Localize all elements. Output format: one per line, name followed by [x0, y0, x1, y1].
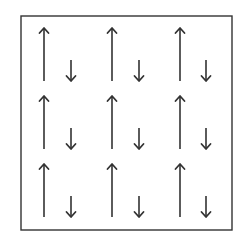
long-up-arrow-icon: [40, 28, 49, 81]
long-up-arrow-icon: [108, 28, 117, 81]
long-up-arrow-icon: [176, 28, 185, 81]
long-up-arrow-icon: [176, 164, 185, 217]
long-up-arrow-icon: [108, 164, 117, 217]
long-up-arrow-icon: [40, 96, 49, 149]
short-down-arrow-icon: [202, 196, 211, 217]
short-down-arrow-icon: [67, 60, 76, 81]
long-up-arrow-icon: [40, 164, 49, 217]
short-down-arrow-icon: [135, 60, 144, 81]
short-down-arrow-icon: [135, 196, 144, 217]
long-up-arrow-icon: [176, 96, 185, 149]
short-down-arrow-icon: [202, 60, 211, 81]
short-down-arrow-icon: [67, 128, 76, 149]
short-down-arrow-icon: [135, 128, 144, 149]
enclosing-box: [21, 16, 232, 230]
spin-lattice-diagram: [0, 0, 240, 240]
long-up-arrow-icon: [108, 96, 117, 149]
short-down-arrow-icon: [67, 196, 76, 217]
short-down-arrow-icon: [202, 128, 211, 149]
arrow-grid: [40, 28, 211, 217]
